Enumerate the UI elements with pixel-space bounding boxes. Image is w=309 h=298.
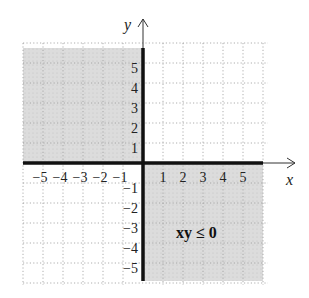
x-tick-label: 4 (220, 170, 227, 185)
y-tick-label: −3 (123, 221, 138, 236)
y-tick-label: −2 (123, 201, 138, 216)
inequality-label: xy ≤ 0 (176, 224, 217, 242)
x-tick-label: −4 (53, 170, 68, 185)
y-tick-label: −5 (123, 261, 138, 276)
y-tick-label: −1 (123, 181, 138, 196)
y-tick-label: 1 (131, 141, 138, 156)
x-tick-label: −2 (93, 170, 108, 185)
x-tick-label: −5 (33, 170, 48, 185)
graph: x y −5−4−3−2−112345 −5−4−3−2−112345 xy ≤… (0, 0, 309, 298)
x-tick-label: 3 (200, 170, 207, 185)
y-axis-label: y (122, 16, 132, 34)
y-tick-label: 5 (131, 61, 138, 76)
y-tick-label: 2 (131, 121, 138, 136)
x-tick-label: 5 (240, 170, 247, 185)
x-axis-label: x (285, 171, 293, 188)
x-tick-label: 2 (180, 170, 187, 185)
x-tick-label: −3 (73, 170, 88, 185)
y-tick-label: −4 (123, 241, 138, 256)
y-tick-label: 4 (131, 81, 138, 96)
x-tick-label: 1 (160, 170, 167, 185)
y-tick-label: 3 (131, 101, 138, 116)
